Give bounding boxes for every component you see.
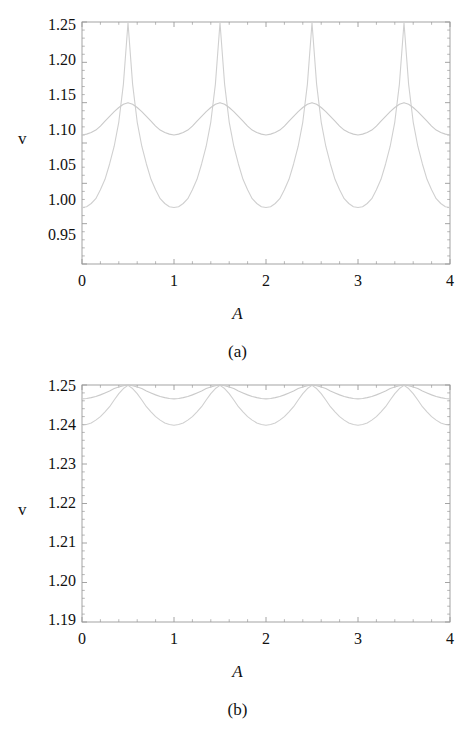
panel-a: 1.25 1.20 1.15 1.10 1.05 1.00 0.95 0 1 2… — [0, 0, 475, 370]
panel-a-xtick-0: 0 — [68, 273, 96, 289]
panel-a-xtick-2: 2 — [252, 273, 280, 289]
panel-a-ytick-4: 1.05 — [24, 157, 76, 173]
panel-a-ytick-5: 1.00 — [24, 192, 76, 208]
panel-a-ytick-1: 1.20 — [24, 52, 76, 68]
figure-container: 1.25 1.20 1.15 1.10 1.05 1.00 0.95 0 1 2… — [0, 0, 475, 737]
panel-b-y-axis-label: v — [18, 501, 27, 518]
panel-a-ytick-0: 1.25 — [24, 17, 76, 33]
panel-b-ytick-2: 1.23 — [24, 456, 76, 472]
panel-b-ytick-5: 1.20 — [24, 573, 76, 589]
curve-a-0 — [82, 23, 450, 208]
panel-a-xtick-4: 4 — [436, 273, 464, 289]
panel-b-ytick-0: 1.25 — [24, 378, 76, 394]
panel-a-x-axis-label: A — [0, 305, 475, 322]
panel-b-xtick-4: 4 — [436, 631, 464, 647]
plot-frame — [82, 385, 450, 622]
panel-a-caption: (a) — [0, 343, 475, 360]
panel-b-caption: (b) — [0, 701, 475, 718]
panel-a-xtick-1: 1 — [160, 273, 188, 289]
panel-a-ytick-3: 1.10 — [24, 122, 76, 138]
panel-a-y-axis-label: v — [18, 130, 27, 147]
panel-b-x-axis-label: A — [0, 663, 475, 680]
panel-a-xtick-3: 3 — [344, 273, 372, 289]
curve-b-0 — [82, 385, 450, 425]
panel-a-ytick-2: 1.15 — [24, 87, 76, 103]
panel-b-ytick-3: 1.22 — [24, 495, 76, 511]
panel-b-xtick-0: 0 — [68, 631, 96, 647]
panel-b-ytick-4: 1.21 — [24, 534, 76, 550]
panel-b: 1.25 1.24 1.23 1.22 1.21 1.20 1.19 0 1 2… — [0, 370, 475, 737]
plot-frame — [82, 22, 450, 264]
panel-b-xtick-3: 3 — [344, 631, 372, 647]
panel-b-xtick-1: 1 — [160, 631, 188, 647]
panel-b-ytick-1: 1.24 — [24, 417, 76, 433]
panel-a-ytick-6: 0.95 — [24, 227, 76, 243]
panel-b-xtick-2: 2 — [252, 631, 280, 647]
panel-b-ytick-6: 1.19 — [24, 612, 76, 628]
